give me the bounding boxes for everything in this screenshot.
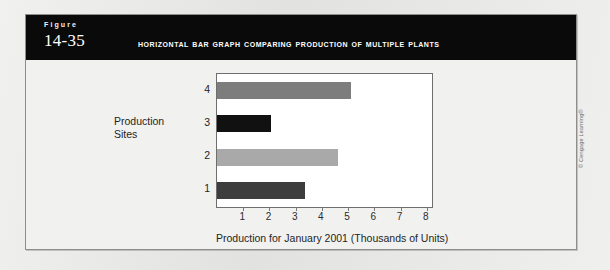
x-tick-label-5: 5 xyxy=(337,211,357,222)
bar-site-2 xyxy=(217,149,338,166)
plot-area xyxy=(216,73,433,208)
y-axis-title: Production Sites xyxy=(114,115,190,141)
chart-body: Production Sites Production for January … xyxy=(26,60,576,251)
bar-site-3 xyxy=(217,115,271,132)
x-tick-label-6: 6 xyxy=(363,211,383,222)
x-tick-label-8: 8 xyxy=(416,211,436,222)
figure-label-word: Figure xyxy=(44,20,136,30)
figure-panel: Figure 14-35 Horizontal Bar Graph Compar… xyxy=(25,14,577,250)
x-axis-title: Production for January 2001 (Thousands o… xyxy=(216,232,433,244)
figure-number: 14-35 xyxy=(44,31,136,51)
bar-site-4 xyxy=(217,82,351,99)
y-tick-label-2: 2 xyxy=(194,149,210,161)
bar-site-1 xyxy=(217,182,305,199)
y-tick-label-3: 3 xyxy=(194,116,210,128)
figure-header-bar: Figure 14-35 Horizontal Bar Graph Compar… xyxy=(26,15,576,60)
figure-title: Horizontal Bar Graph Comparing Productio… xyxy=(138,37,566,49)
figure-number-block: Figure 14-35 xyxy=(44,20,136,51)
y-tick-label-4: 4 xyxy=(194,83,210,95)
x-tick-label-2: 2 xyxy=(258,211,278,222)
x-tick-label-3: 3 xyxy=(285,211,305,222)
x-tick-label-7: 7 xyxy=(390,211,410,222)
y-tick-label-1: 1 xyxy=(194,182,210,194)
copyright-credit: © Cengage Learning® xyxy=(578,109,584,168)
x-tick-label-1: 1 xyxy=(232,211,252,222)
x-tick-label-4: 4 xyxy=(311,211,331,222)
